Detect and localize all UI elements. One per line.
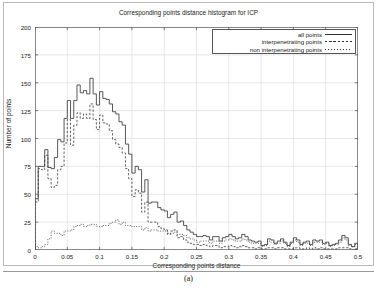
y-tick-label: 75 — [24, 163, 31, 170]
x-tick-label: 0.5 — [354, 253, 363, 260]
legend-item-all-points: all points — [213, 31, 355, 38]
x-tick-label: 0.05 — [61, 253, 73, 260]
y-axis-tick-labels: 0255075100125150175200 — [0, 27, 31, 250]
x-tick-label: 0.1 — [95, 253, 104, 260]
legend-swatch-dashed-line-icon — [325, 41, 352, 42]
legend-swatch-solid-line-icon — [325, 34, 352, 35]
y-tick-label: 175 — [21, 51, 31, 58]
caption-divider — [3, 271, 374, 272]
y-tick-label: 100 — [21, 135, 31, 142]
grid-lines — [35, 27, 358, 250]
legend-item-non-interpenetrating-points: non interpenetrating points — [213, 46, 355, 53]
figure-container: Corresponding points distance histogram … — [0, 0, 377, 292]
x-tick-label: 0.15 — [126, 253, 138, 260]
y-tick-label: 150 — [21, 79, 31, 86]
y-tick-label: 25 — [24, 219, 31, 226]
x-tick-label: 0.45 — [320, 253, 332, 260]
legend-label-interpenetrating-points: interpenetrating points — [262, 38, 322, 45]
histogram-svg — [35, 27, 358, 250]
x-tick-label: 0.4 — [289, 253, 298, 260]
x-tick-label: 0.3 — [224, 253, 233, 260]
x-tick-label: 0 — [33, 253, 36, 260]
legend-label-all-points: all points — [298, 31, 322, 38]
x-axis-label: Corresponding points distance — [35, 262, 358, 269]
y-tick-label: 50 — [24, 191, 31, 198]
y-tick-label: 125 — [21, 107, 31, 114]
x-tick-label: 0.35 — [255, 253, 267, 260]
x-tick-label: 0.2 — [160, 253, 169, 260]
y-tick-label: 0 — [28, 247, 31, 254]
legend-swatch-dotted-line-icon — [325, 49, 352, 50]
x-tick-label: 0.25 — [190, 253, 202, 260]
legend-item-interpenetrating-points: interpenetrating points — [213, 38, 355, 45]
chart-title: Corresponding points distance histogram … — [0, 9, 377, 16]
plot-area — [35, 27, 358, 250]
y-tick-label: 200 — [21, 24, 31, 31]
legend-label-non-interpenetrating-points: non interpenetrating points — [250, 46, 322, 53]
chart-legend: all points interpenetrating points non i… — [212, 29, 356, 54]
figure-caption: (a) — [0, 274, 377, 283]
